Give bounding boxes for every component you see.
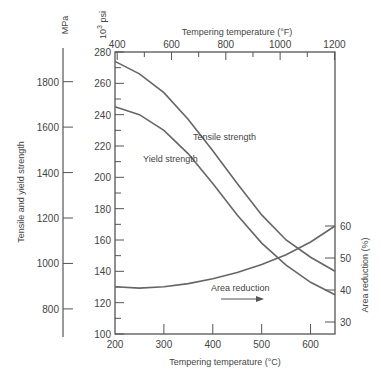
area-label: Area reduction bbox=[211, 283, 270, 293]
y2-axis-title: Area reduction (%) bbox=[360, 237, 370, 312]
y2-tick-label: 30 bbox=[340, 317, 352, 328]
y-tick-label: 200 bbox=[94, 172, 111, 183]
y-tick-label: 260 bbox=[94, 78, 111, 89]
mpa-tick-label: 1800 bbox=[37, 77, 60, 88]
x-tick-label: 300 bbox=[156, 339, 173, 350]
y-tick-label: 240 bbox=[94, 110, 111, 121]
yield-label: Yield strength bbox=[143, 154, 198, 164]
x-axis-title: Tempering temperature (°C) bbox=[169, 357, 281, 367]
y-tick-label: 280 bbox=[94, 47, 111, 58]
x-tick-label: 600 bbox=[302, 339, 319, 350]
x2-tick-label: 400 bbox=[109, 39, 126, 50]
mpa-unit-label: MPa bbox=[60, 16, 70, 35]
mpa-tick-label: 1600 bbox=[37, 122, 60, 133]
mpa-tick-label: 1200 bbox=[37, 213, 60, 224]
y-tick-label: 220 bbox=[94, 141, 111, 152]
mpa-tick-label: 800 bbox=[42, 304, 59, 315]
x2-tick-label: 1200 bbox=[323, 39, 346, 50]
x-tick-label: 200 bbox=[107, 339, 124, 350]
psi-unit-label: 103 psi bbox=[96, 11, 108, 39]
tensile-strength-line bbox=[115, 61, 335, 271]
mpa-tick-label: 1400 bbox=[37, 168, 60, 179]
x2-axis-title: Tempering temperature (°F) bbox=[182, 27, 293, 37]
y2-tick-label: 60 bbox=[340, 221, 352, 232]
x2-tick-label: 800 bbox=[217, 39, 234, 50]
y-tick-label: 140 bbox=[94, 266, 111, 277]
tensile-label: Tensile strength bbox=[193, 132, 256, 142]
y2-tick-label: 40 bbox=[340, 285, 352, 296]
x-tick-label: 500 bbox=[253, 339, 270, 350]
arrow-right-icon bbox=[256, 296, 264, 302]
chart: 200300400500600Tempering temperature (°C… bbox=[0, 0, 381, 380]
mpa-tick-label: 1000 bbox=[37, 258, 60, 269]
y-tick-label: 180 bbox=[94, 204, 111, 215]
y2-tick-label: 50 bbox=[340, 253, 352, 264]
y-tick-label: 160 bbox=[94, 235, 111, 246]
area-reduction-line bbox=[115, 226, 335, 288]
y-tick-label: 120 bbox=[94, 298, 111, 309]
y-axis-title: Tensile and yield strength bbox=[16, 141, 26, 243]
x-tick-label: 400 bbox=[204, 339, 221, 350]
x2-tick-label: 1000 bbox=[269, 39, 292, 50]
x2-tick-label: 600 bbox=[163, 39, 180, 50]
y-tick-label: 100 bbox=[94, 329, 111, 340]
